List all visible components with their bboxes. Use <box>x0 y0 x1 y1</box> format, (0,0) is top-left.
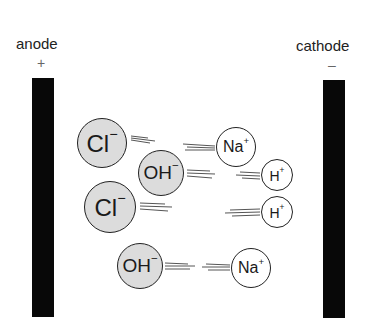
motion-arrows <box>0 0 380 328</box>
ion-charge: − <box>109 126 117 142</box>
hydroxide-ion: OH− <box>117 243 163 289</box>
hydrogen-ion: H+ <box>261 159 293 191</box>
ion-symbol: Na <box>238 260 258 277</box>
ion-charge: − <box>172 159 179 171</box>
oh-2-motion-lines <box>165 263 195 269</box>
sodium-ion: Na+ <box>216 127 256 167</box>
ion-symbol: H <box>269 204 279 220</box>
ion-charge: + <box>280 202 285 212</box>
ion-symbol: OH <box>122 256 151 277</box>
hydroxide-ion: OH− <box>138 150 184 196</box>
ion-charge: + <box>243 135 249 146</box>
ion-charge: + <box>258 256 264 267</box>
ion-charge: − <box>117 190 125 206</box>
h-2-motion-lines <box>225 209 260 216</box>
ion-symbol: Na <box>223 139 243 156</box>
ion-symbol: OH <box>143 163 172 184</box>
h-1-motion-lines <box>236 172 260 179</box>
cl-2-motion-lines <box>140 203 172 211</box>
ion-symbol: H <box>269 167 279 183</box>
cl-1-motion-lines <box>131 136 155 143</box>
oh-1-motion-lines <box>187 170 215 178</box>
ion-charge: − <box>151 252 158 264</box>
na-1-motion-lines <box>183 144 215 150</box>
ion-symbol: Cl <box>94 194 117 221</box>
ion-charge: + <box>280 165 285 175</box>
sodium-ion: Na+ <box>231 248 271 288</box>
hydrogen-ion: H+ <box>261 196 293 228</box>
chloride-ion: Cl− <box>77 118 127 168</box>
ion-symbol: Cl <box>86 130 109 157</box>
na-2-motion-lines <box>202 264 230 270</box>
chloride-ion: Cl− <box>84 181 136 233</box>
